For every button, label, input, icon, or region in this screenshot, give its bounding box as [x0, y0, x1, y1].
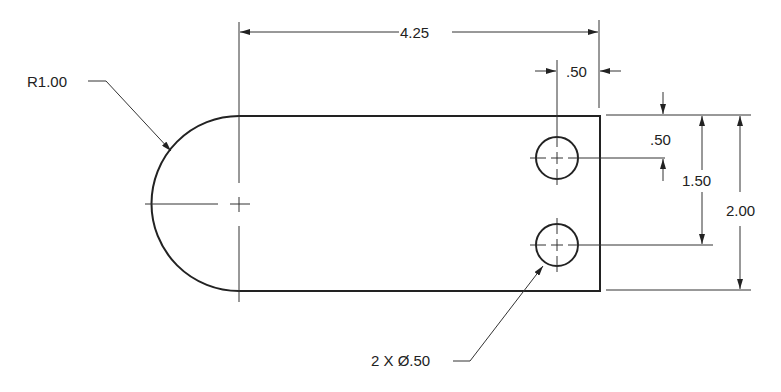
dim-label-overall-height: 2.00 [725, 203, 756, 218]
dim-label-hole-top-offset: .50 [649, 132, 672, 147]
technical-drawing [0, 0, 781, 392]
leader-radius [88, 81, 171, 151]
dim-label-radius: R1.00 [26, 74, 68, 89]
extension-lines [599, 20, 751, 290]
dim-label-hole-spacing: 1.50 [681, 173, 712, 188]
dim-label-holes-callout: 2 X Ø.50 [370, 353, 431, 368]
part-outline [152, 116, 601, 291]
center-lines [145, 22, 713, 302]
dim-label-overall-length: 4.25 [399, 25, 430, 40]
leader-holes [453, 266, 543, 361]
dim-label-hole-edge-offset: .50 [565, 64, 588, 79]
